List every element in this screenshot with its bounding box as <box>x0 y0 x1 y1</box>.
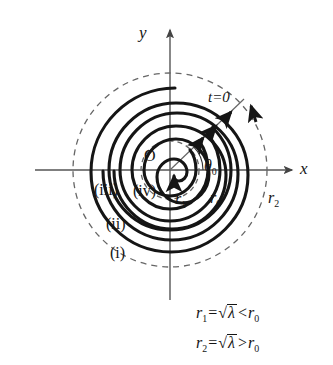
eq-r2-equals: = <box>207 334 218 351</box>
eq-r1-radical: √ <box>218 305 227 321</box>
eq-r2-relation: > <box>237 334 248 351</box>
eq-r2-radicand: λ <box>227 334 237 351</box>
r2-subscript: 2 <box>274 198 279 209</box>
direction-arrow-outer <box>223 112 231 121</box>
equation-r1: r1=√λ<r0 <box>196 304 259 324</box>
initial-time-label: t=0 <box>208 90 230 105</box>
radius-label-r2: r2 <box>268 190 279 209</box>
equation-r2: r2=√λ>r0 <box>196 334 259 354</box>
radius-label-r1: r1 <box>175 191 186 210</box>
y-axis-label: y <box>139 24 147 41</box>
curve-label-iv: (iv) <box>133 183 156 199</box>
theta-glyph: θ <box>204 157 212 174</box>
origin-label: O <box>144 148 156 164</box>
radius-label-r0: r0 <box>210 190 221 209</box>
eq-r1-equals: = <box>207 304 218 321</box>
eq-r2-radical: √ <box>218 335 227 351</box>
spiral-phase-portrait <box>0 0 333 365</box>
r0-subscript: 0 <box>216 198 221 209</box>
eq-r1-radicand: λ <box>227 304 237 321</box>
eq-r1-relation: < <box>237 304 248 321</box>
initial-angle-label: θ0 <box>204 158 217 177</box>
x-axis-label: x <box>300 160 308 177</box>
theta-subscript: 0 <box>212 166 217 177</box>
eq-r2-rhs-sub: 0 <box>254 343 259 354</box>
eq-r1-rhs-sub: 0 <box>254 313 259 324</box>
figure-canvas: y x O t=0 θ0 r1 r0 r2 (iii) (iv) (ii) (i… <box>0 0 333 365</box>
curve-label-ii: (ii) <box>106 216 126 232</box>
r1-subscript: 1 <box>181 199 186 210</box>
curve-label-iii: (iii) <box>94 182 118 198</box>
curve-label-i: (i) <box>110 245 125 261</box>
